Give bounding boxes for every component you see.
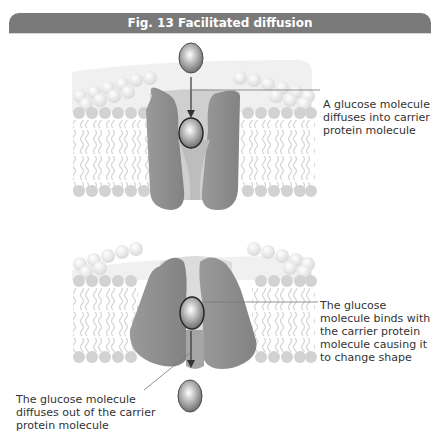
annotation-binds: The glucose molecule binds with the carr… bbox=[320, 299, 439, 364]
stage-1-carrier-protein bbox=[146, 87, 240, 210]
facilitated-diffusion-diagram bbox=[0, 0, 439, 432]
stage-2-glucose-bound bbox=[180, 297, 204, 329]
stage-1-glucose-top bbox=[179, 43, 203, 73]
annotation-diffuses-in: A glucose molecule diffuses into carrier… bbox=[323, 98, 439, 137]
stage-2-glucose-exit bbox=[178, 380, 202, 412]
stage-1-glucose-inside bbox=[179, 118, 203, 148]
annotation-diffuses-out: The glucose molecule diffuses out of the… bbox=[16, 393, 176, 432]
